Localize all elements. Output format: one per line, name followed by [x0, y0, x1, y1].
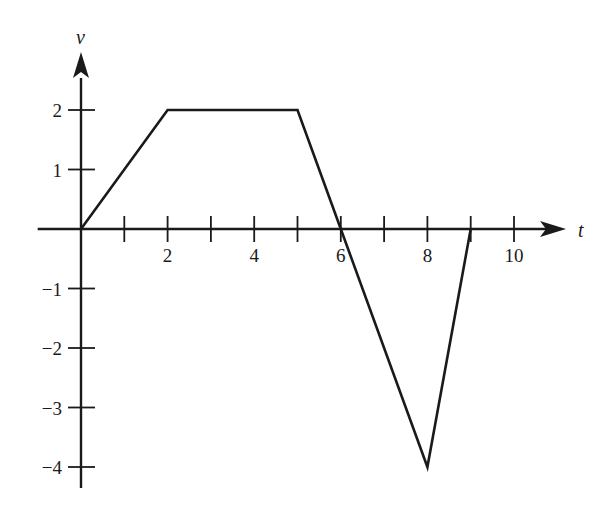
y-tick-label: −3 [42, 398, 62, 419]
x-tick-label: 2 [163, 245, 173, 266]
x-tick-label: 10 [505, 245, 524, 266]
x-tick-label: 4 [249, 245, 259, 266]
y-axis-label: v [76, 26, 85, 48]
ticks [68, 110, 514, 467]
y-tick-label: −4 [42, 457, 63, 478]
x-tick-label: 6 [336, 245, 346, 266]
velocity-curve [81, 110, 471, 467]
axes [38, 52, 566, 488]
y-tick-label: −1 [42, 279, 62, 300]
y-axis-arrow-icon [73, 52, 89, 78]
y-tick-label: 1 [53, 160, 63, 181]
y-tick-label: −2 [42, 338, 62, 359]
velocity-time-graph: 24681021−1−2−3−4 t v [0, 0, 613, 510]
x-tick-label: 8 [423, 245, 433, 266]
y-tick-label: 2 [53, 100, 63, 121]
tick-labels: 24681021−1−2−3−4 [42, 100, 524, 478]
x-axis-label: t [578, 219, 584, 241]
